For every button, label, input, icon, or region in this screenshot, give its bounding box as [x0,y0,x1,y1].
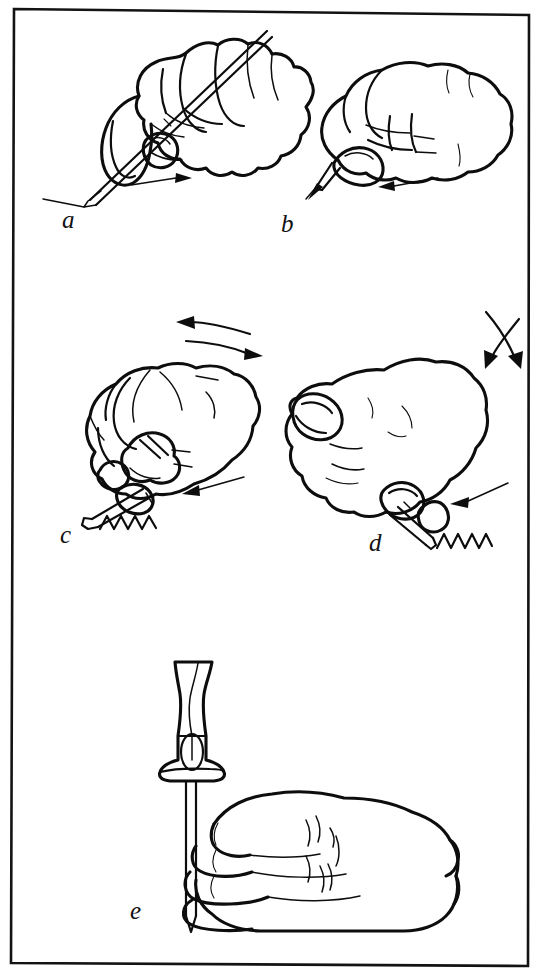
panel-a: a [43,31,313,233]
hand-outline-a [102,39,314,185]
illustration-plate: a [0,0,552,979]
panel-label-a: a [62,206,75,233]
straight-arrow-left-d [450,483,508,508]
hand-detail-a [143,45,278,168]
hand-outline-d [286,359,488,516]
panel-label-b: b [281,210,294,237]
hand-detail-d [293,394,449,532]
panel-b: b [281,63,512,237]
panel-e: e [130,662,459,932]
panel-label-c: c [60,521,71,548]
hand-detail-b [334,70,473,185]
curved-arrow-pair-c [176,316,263,360]
zigzag-scratch-d [437,534,492,548]
curved-arrow-pair-d [484,312,523,369]
hand-outline-e [196,792,459,931]
panel-label-d: d [369,529,382,556]
scriber-handle-icon [159,662,224,781]
panel-d: d [286,312,523,556]
plate-frame [11,9,529,966]
panel-label-e: e [130,897,141,924]
zigzag-scratch-c [100,516,156,529]
hand-outline-b [322,63,512,183]
panel-c: c [60,316,263,548]
plate-artwork: a [0,0,552,979]
